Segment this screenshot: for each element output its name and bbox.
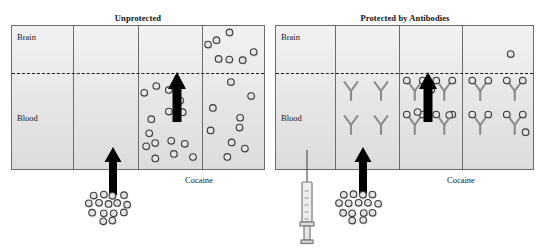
dose-molecule-protected-5-shadow bbox=[346, 201, 353, 208]
cocaine-label-unprotected: Cocaine bbox=[185, 175, 213, 185]
dose-molecule-unprotected-0-shadow bbox=[91, 193, 98, 200]
dose-molecule-protected-11-shadow bbox=[361, 210, 368, 217]
cell-divider-unprotected-1 bbox=[138, 26, 139, 169]
syringe-protected-plunger-thumb bbox=[301, 240, 313, 244]
dose-molecule-unprotected-12-shadow bbox=[121, 210, 128, 217]
blood-brain-barrier-protected bbox=[276, 73, 533, 74]
dose-molecule-unprotected-10 bbox=[100, 210, 107, 217]
dose-molecule-protected-2 bbox=[360, 192, 367, 199]
dose-molecule-unprotected-5-shadow bbox=[96, 200, 103, 207]
dose-molecule-protected-12-shadow bbox=[370, 210, 377, 217]
dose-molecule-protected-6 bbox=[355, 200, 362, 207]
syringe-protected-plunger-rod bbox=[304, 226, 310, 240]
dose-molecule-unprotected-9-shadow bbox=[90, 210, 97, 217]
dose-molecule-unprotected-3 bbox=[121, 192, 128, 199]
dose-molecule-protected-0-shadow bbox=[341, 192, 348, 199]
dose-molecule-unprotected-8-shadow bbox=[125, 202, 132, 209]
dose-molecule-protected-3-shadow bbox=[370, 192, 377, 199]
dose-molecule-unprotected-4-shadow bbox=[86, 201, 93, 208]
dose-molecule-unprotected-0 bbox=[90, 192, 97, 199]
dose-molecule-protected-6-shadow bbox=[356, 200, 363, 207]
dose-molecule-protected-1 bbox=[350, 191, 357, 198]
dose-molecule-protected-9 bbox=[340, 210, 347, 217]
dose-molecule-protected-10 bbox=[349, 210, 356, 217]
panel-protected bbox=[275, 25, 534, 170]
dose-molecule-protected-1-shadow bbox=[351, 192, 358, 199]
dose-molecule-protected-11 bbox=[360, 210, 367, 217]
dose-molecule-protected-13 bbox=[349, 217, 356, 224]
dose-molecule-unprotected-11 bbox=[110, 210, 117, 217]
cell-divider-protected-2 bbox=[462, 26, 463, 169]
dose-molecule-unprotected-9 bbox=[89, 209, 96, 216]
dose-molecule-unprotected-13-shadow bbox=[101, 219, 108, 226]
panel-title-protected: Protected by Antibodies bbox=[315, 13, 495, 23]
dose-molecule-protected-9-shadow bbox=[341, 210, 348, 217]
region-label-brain-protected: Brain bbox=[281, 32, 300, 42]
dose-molecule-protected-14 bbox=[360, 217, 367, 224]
dose-molecule-protected-8 bbox=[375, 200, 382, 207]
dose-molecule-unprotected-1-shadow bbox=[101, 192, 108, 199]
cell-divider-unprotected-0 bbox=[73, 26, 74, 169]
blood-brain-barrier-unprotected bbox=[12, 73, 264, 74]
syringe-protected-flange bbox=[300, 222, 314, 226]
panel-unprotected bbox=[11, 25, 265, 170]
dose-molecule-unprotected-13 bbox=[100, 218, 107, 225]
dose-molecule-unprotected-6 bbox=[105, 201, 112, 208]
dose-molecule-unprotected-11-shadow bbox=[111, 211, 118, 218]
panel-title-unprotected: Unprotected bbox=[48, 13, 228, 23]
region-label-blood-protected: Blood bbox=[281, 113, 302, 123]
cell-divider-unprotected-2 bbox=[202, 26, 203, 169]
dose-molecule-unprotected-8 bbox=[124, 201, 131, 208]
dose-molecule-protected-0 bbox=[340, 192, 347, 199]
dose-molecule-protected-8-shadow bbox=[376, 201, 383, 208]
dose-molecule-protected-10-shadow bbox=[349, 211, 356, 218]
dose-molecule-unprotected-4 bbox=[85, 200, 92, 207]
dose-molecule-unprotected-2-shadow bbox=[110, 193, 117, 200]
dose-molecule-protected-14-shadow bbox=[361, 217, 368, 224]
dose-molecule-unprotected-1 bbox=[101, 191, 108, 198]
dose-molecule-unprotected-2 bbox=[109, 192, 116, 199]
dose-molecule-protected-2-shadow bbox=[360, 192, 367, 199]
dose-molecule-unprotected-7-shadow bbox=[115, 200, 122, 207]
dose-molecule-protected-7 bbox=[365, 200, 372, 207]
dose-molecule-unprotected-5 bbox=[96, 200, 103, 207]
dose-molecule-unprotected-12 bbox=[121, 209, 128, 216]
dose-molecule-unprotected-6-shadow bbox=[106, 201, 113, 208]
figure-root: Unprotected Protected by Antibodies Brai… bbox=[0, 0, 545, 248]
dose-molecule-protected-5 bbox=[345, 200, 352, 207]
dose-molecule-protected-3 bbox=[369, 191, 376, 198]
dose-molecule-unprotected-3-shadow bbox=[121, 193, 128, 200]
cell-divider-protected-1 bbox=[399, 26, 400, 169]
cell-divider-protected-0 bbox=[335, 26, 336, 169]
dose-molecule-protected-4 bbox=[336, 200, 343, 207]
dose-molecule-unprotected-10-shadow bbox=[101, 211, 108, 218]
region-label-brain-unprotected: Brain bbox=[17, 32, 36, 42]
dose-molecule-protected-7-shadow bbox=[365, 200, 372, 207]
dose-molecule-protected-4-shadow bbox=[336, 200, 343, 207]
dose-molecule-protected-13-shadow bbox=[350, 218, 357, 225]
cocaine-label-protected: Cocaine bbox=[447, 175, 475, 185]
region-label-blood-unprotected: Blood bbox=[17, 113, 38, 123]
dose-molecule-unprotected-7 bbox=[114, 200, 121, 207]
dose-molecule-protected-12 bbox=[369, 210, 376, 217]
dose-molecule-unprotected-14-shadow bbox=[110, 218, 117, 225]
syringe-protected-barrel bbox=[302, 182, 312, 222]
dose-molecule-unprotected-14 bbox=[109, 217, 116, 224]
